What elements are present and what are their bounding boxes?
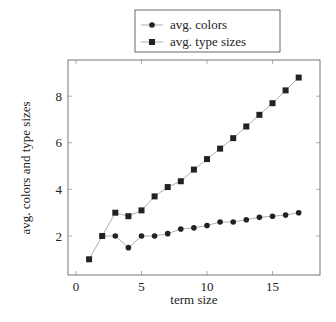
square-marker-icon [139,207,145,213]
series-line [102,213,299,248]
square-marker-icon [191,167,197,173]
square-marker-icon [270,100,276,106]
legend: avg. colors avg. type sizes [135,10,280,52]
circle-marker-icon [191,225,197,231]
square-marker-icon [125,213,131,219]
square-marker-icon [204,156,210,162]
circle-marker-icon [230,219,236,225]
x-axis-ticks: 051015 [73,60,279,294]
x-tick-label: 5 [138,279,145,294]
circle-marker-icon [217,219,223,225]
y-tick-label: 6 [56,135,63,150]
circle-marker-icon [296,210,302,216]
square-marker-icon [243,123,249,129]
square-marker-icon [165,184,171,190]
legend-label-type-sizes: avg. type sizes [170,34,246,49]
circle-marker-icon [204,223,210,229]
circle-marker-icon [113,233,119,239]
square-marker-icon [296,75,302,81]
series-markers [86,75,302,263]
x-tick-label: 15 [266,279,279,294]
square-marker-icon [99,233,105,239]
line-chart: 051015 2468 term size avg. colors and ty… [0,0,336,322]
square-marker-icon [178,178,184,184]
square-marker-icon [256,112,262,118]
y-axis-label: avg. colors and type sizes [18,101,33,234]
square-marker-icon [230,135,236,141]
circle-marker-icon [139,233,145,239]
square-marker-icon [217,146,223,152]
y-tick-label: 4 [56,182,63,197]
circle-marker-icon [178,226,184,232]
square-marker-icon [149,39,155,45]
circle-marker-icon [126,245,132,251]
circle-marker-icon [257,215,263,221]
square-marker-icon [86,256,92,262]
x-axis-label: term size [170,292,218,307]
x-tick-label: 0 [73,279,80,294]
circle-marker-icon [152,233,158,239]
circle-marker-icon [244,217,250,223]
circle-marker-icon [283,212,289,218]
circle-marker-icon [149,22,155,28]
y-tick-label: 8 [56,89,63,104]
circle-marker-icon [165,231,171,237]
y-tick-label: 2 [56,229,63,244]
circle-marker-icon [270,213,276,219]
y-axis-ticks: 2468 [56,89,321,244]
legend-label-colors: avg. colors [170,17,227,32]
square-marker-icon [112,210,118,216]
square-marker-icon [152,193,158,199]
square-marker-icon [283,87,289,93]
